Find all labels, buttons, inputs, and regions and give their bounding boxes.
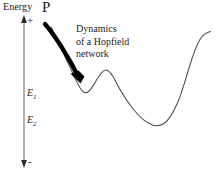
energy-level-1-subscript: 1 [33, 93, 37, 101]
axis-arrowhead-down-icon [21, 160, 27, 168]
energy-level-2-subscript: 2 [33, 120, 37, 128]
axis-negative-sign: - [28, 156, 32, 168]
caption-line-3: network [76, 48, 129, 61]
dynamics-arrow-shaft [45, 24, 77, 75]
initial-state-label: P [42, 0, 50, 16]
axis-title: Energy [3, 2, 32, 13]
energy-level-1-label: E1 [27, 88, 37, 101]
dynamics-caption: Dynamics of a Hopfield network [76, 23, 129, 61]
caption-line-1: Dynamics [76, 23, 129, 36]
energy-landscape-figure: Energy P + - E1 E2 Dynamics of a Hopfiel… [0, 0, 216, 178]
caption-line-2: of a Hopfield [76, 36, 129, 49]
axis-positive-sign: + [27, 15, 33, 27]
energy-level-2-label: E2 [27, 115, 37, 128]
